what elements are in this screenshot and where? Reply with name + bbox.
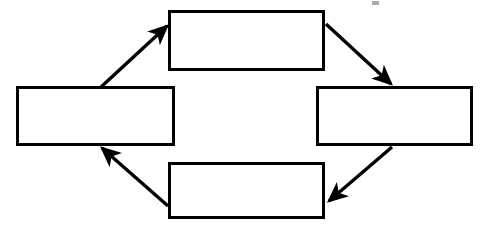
scan-artifact-speck [372,1,379,5]
node-box-left[interactable] [16,86,175,146]
node-box-bottom[interactable] [168,162,325,219]
edge-bottom-to-left [102,148,168,206]
node-box-right[interactable] [316,86,473,146]
edge-left-to-top [101,26,167,87]
edge-right-to-bottom [329,147,392,201]
edge-top-to-right [326,24,391,84]
cycle-diagram-figure [0,0,486,229]
node-box-top[interactable] [168,10,325,71]
